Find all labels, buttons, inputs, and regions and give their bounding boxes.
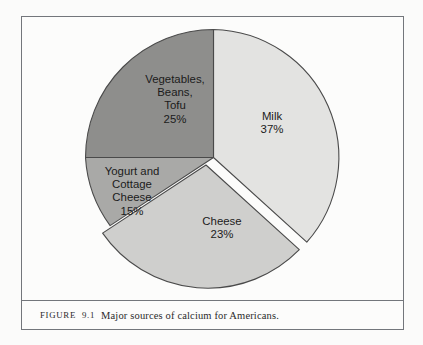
- figure-caption-number: 9.1: [82, 310, 95, 320]
- figure-caption: FIGURE 9.1 Major sources of calcium for …: [22, 301, 403, 329]
- figure-caption-label: FIGURE: [40, 310, 76, 320]
- pie-chart-svg: [22, 17, 403, 300]
- figure-frame: Vegetables, Beans, Tofu 25% Milk 37% Yog…: [21, 16, 404, 330]
- pie-slice-vegetables-beans-tofu[interactable]: [86, 30, 214, 158]
- figure-caption-text: Major sources of calcium for Americans.: [101, 310, 279, 321]
- pie-chart-plot-area: Vegetables, Beans, Tofu 25% Milk 37% Yog…: [22, 17, 403, 300]
